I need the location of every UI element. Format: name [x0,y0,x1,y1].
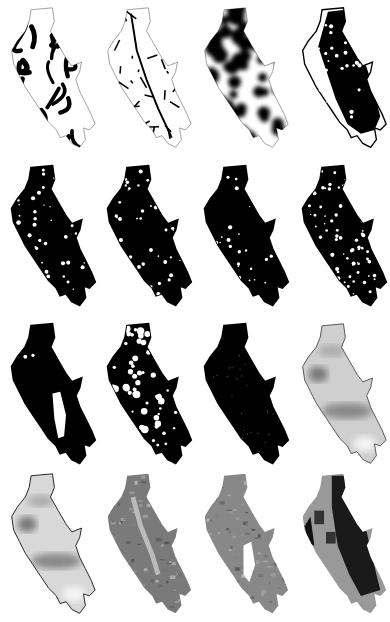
map-panel-r2-c0-binary-mask [2,318,99,473]
map-panel-r0-c1-road-network [98,2,195,157]
map-panel-r1-c3-binary-mask [293,160,390,315]
map-panel-r0-c2-density-blobs [195,2,292,157]
map-panel-r3-c2-terrain-texture [195,468,292,622]
map-panel-r2-c1-binary-mask [98,318,195,473]
map-panel-r1-c1-binary-mask [98,160,195,315]
map-panel-r1-c2-binary-mask [195,160,292,315]
map-panel-r3-c0-interpolated-surface [2,468,99,622]
map-grid [0,0,390,622]
map-panel-r0-c0-drainage-network [2,2,99,157]
map-panel-r2-c3-interpolated-surface [293,318,390,473]
map-panel-r3-c3-classified-surface [293,468,390,622]
map-panel-r0-c3-mostly-black-with-white-margin [293,2,390,157]
map-panel-r3-c1-terrain-texture [98,468,195,622]
map-panel-r1-c0-binary-mask [2,160,99,315]
map-panel-r2-c2-binary-mask [195,318,292,473]
